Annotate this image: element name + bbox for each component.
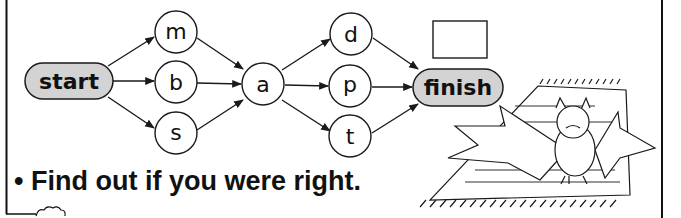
node-p: p (329, 65, 371, 107)
edge-a-d (282, 39, 330, 70)
rug-bottom-fringe (420, 200, 616, 207)
node-a: a (242, 63, 284, 105)
rug-top-fringe (540, 79, 620, 84)
node-d: d (330, 13, 372, 55)
edge-a-p (285, 85, 328, 86)
finish-label: finish (424, 75, 492, 100)
edge-t-finish (372, 104, 418, 133)
finish-node: finish (413, 69, 503, 106)
node-a-label: a (256, 72, 269, 97)
instruction-text: • Find out if you were right. (14, 166, 361, 197)
node-d-label: d (344, 22, 358, 47)
edge-start-s (108, 97, 154, 128)
start-label: start (39, 69, 99, 94)
bullet: • (14, 166, 23, 196)
node-m: m (155, 11, 197, 53)
cloud-icon (36, 207, 65, 216)
edge-start-m (108, 37, 154, 66)
edge-b-a (197, 83, 241, 84)
node-t: t (329, 115, 371, 157)
node-t-label: t (346, 124, 355, 149)
edge-s-a (197, 100, 243, 130)
start-node: start (25, 63, 113, 99)
node-s-label: s (170, 120, 181, 145)
node-p-label: p (343, 72, 357, 97)
node-s: s (155, 112, 197, 154)
edge-m-a (197, 38, 243, 69)
node-m-label: m (165, 19, 186, 44)
instruction-label: Find out if you were right. (31, 166, 361, 196)
edge-d-finish (373, 38, 418, 69)
node-b: b (155, 61, 197, 103)
word-path-diagram: start m b s a d p t finish (0, 0, 681, 218)
bat-head (557, 106, 589, 138)
edge-a-t (282, 100, 330, 131)
answer-box[interactable] (433, 21, 487, 58)
node-b-label: b (169, 70, 183, 95)
